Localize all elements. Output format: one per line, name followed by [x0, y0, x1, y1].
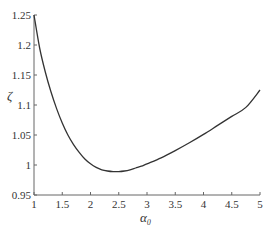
- y-tick-label: 1: [26, 159, 32, 171]
- data-series: [34, 15, 260, 172]
- x-axis: 11.522.533.544.55: [31, 192, 263, 210]
- y-tick-label: 0.95: [12, 189, 32, 201]
- x-tick-label: 4: [201, 198, 207, 210]
- y-tick-label: 1.05: [12, 129, 32, 141]
- x-tick-label: 3: [144, 198, 150, 210]
- x-tick-label: 1.5: [55, 198, 69, 210]
- y-tick-label: 1.2: [17, 39, 31, 51]
- x-tick-label: 2: [88, 198, 94, 210]
- y-tick-label: 1.15: [12, 69, 32, 81]
- x-tick-label: 1: [31, 198, 37, 210]
- y-tick-label: 1.1: [17, 99, 31, 111]
- x-tick-label: 3.5: [168, 198, 182, 210]
- x-axis-label: α₀: [140, 210, 151, 225]
- x-tick-label: 5: [257, 198, 263, 210]
- series-line: [34, 15, 260, 172]
- x-tick-label: 2.5: [112, 198, 126, 210]
- y-axis-label: ζ: [7, 88, 13, 103]
- y-axis: 0.9511.051.11.151.21.25: [12, 9, 37, 201]
- y-tick-label: 1.25: [12, 9, 32, 21]
- line-chart: 0.9511.051.11.151.21.25 11.522.533.544.5…: [0, 0, 269, 236]
- x-tick-label: 4.5: [225, 198, 239, 210]
